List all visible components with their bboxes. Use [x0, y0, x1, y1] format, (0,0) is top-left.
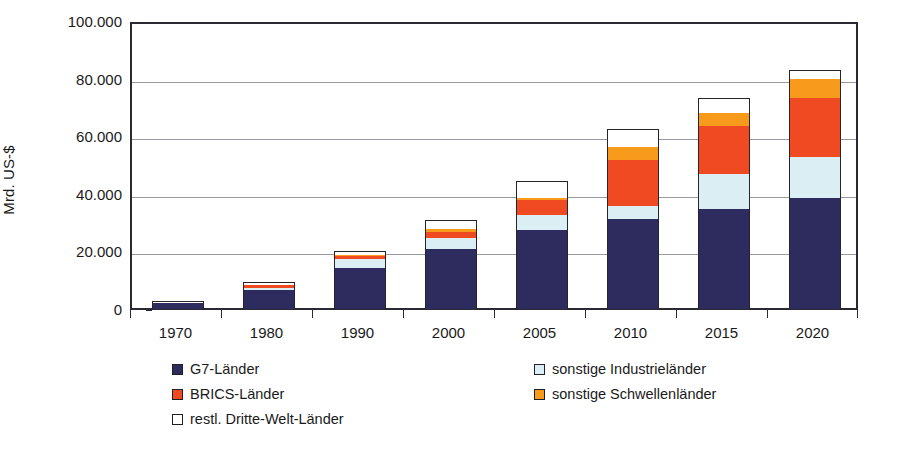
legend-item[interactable]: BRICS-Länder [172, 387, 284, 402]
x-axis-tick-mark [494, 310, 495, 318]
x-axis-tick-label: 1980 [222, 324, 312, 341]
stacked-bar[interactable] [698, 98, 750, 308]
bar-segment[interactable] [607, 129, 659, 146]
y-axis-tick-label: 0 [22, 302, 122, 317]
bar-segment[interactable] [516, 181, 568, 198]
legend-item-label: sonstige Schwellenländer [552, 387, 716, 402]
x-axis-tick-mark [676, 310, 677, 318]
bar-segment[interactable] [789, 77, 841, 97]
stacked-bar[interactable] [334, 251, 386, 308]
legend-item-label: restl. Dritte-Welt-Länder [190, 412, 344, 427]
legend-item[interactable]: restl. Dritte-Welt-Länder [172, 412, 344, 427]
x-axis-tick-mark [403, 310, 404, 318]
bar-group [587, 24, 678, 308]
stacked-bar-chart: Mrd. US-$ 020.00040.00060.00080.000100.0… [0, 0, 915, 452]
legend-item-label: sonstige Industrieländer [552, 362, 706, 377]
bar-segment[interactable] [334, 258, 386, 268]
legend-item-label: BRICS-Länder [190, 387, 284, 402]
bar-segment[interactable] [607, 158, 659, 206]
x-axis-tick-mark [221, 310, 222, 318]
bar-segment[interactable] [698, 112, 750, 126]
bar-segment[interactable] [516, 229, 568, 309]
legend-item[interactable]: G7-Länder [172, 362, 259, 377]
y-axis-tick-label: 100.000 [22, 14, 122, 29]
x-axis-tick-mark [312, 310, 313, 318]
x-axis-tick-label: 2005 [495, 324, 585, 341]
legend-item[interactable]: sonstige Schwellenländer [534, 387, 716, 402]
bar-segment[interactable] [607, 145, 659, 159]
bar-segment[interactable] [243, 282, 295, 285]
stacked-bar[interactable] [425, 220, 477, 308]
x-axis-tick-label: 1990 [313, 324, 403, 341]
bar-segment[interactable] [152, 301, 204, 303]
bar-group [223, 24, 314, 308]
x-axis-tick-mark [585, 310, 586, 318]
bar-segment[interactable] [425, 237, 477, 249]
x-axis-tick-label: 1970 [131, 324, 221, 341]
x-axis: 19701980199020002005201020152020 [130, 310, 858, 356]
x-axis-tick-label: 2000 [404, 324, 494, 341]
stacked-bar[interactable] [607, 129, 659, 308]
bar-group [678, 24, 769, 308]
bar-segment[interactable] [425, 247, 477, 309]
bar-group [769, 24, 860, 308]
y-axis-title: Mrd. US-$ [0, 120, 17, 240]
y-axis-tick-label: 60.000 [22, 129, 122, 144]
stacked-bar[interactable] [243, 282, 295, 308]
bar-segment[interactable] [789, 155, 841, 198]
plot-area [130, 22, 858, 310]
bar-group [405, 24, 496, 308]
legend-swatch-icon [172, 364, 183, 375]
legend-swatch-icon [534, 364, 545, 375]
bar-segment[interactable] [789, 96, 841, 156]
bar-segment[interactable] [425, 220, 477, 229]
stacked-bar[interactable] [789, 70, 841, 308]
y-axis-tick-labels: 020.00040.00060.00080.000100.000 [22, 0, 122, 452]
bar-series-group [132, 24, 856, 308]
x-axis-tick-label: 2020 [768, 324, 858, 341]
bar-segment[interactable] [334, 267, 386, 310]
legend-item[interactable]: sonstige Industrieländer [534, 362, 706, 377]
x-axis-tick-mark [130, 310, 131, 318]
bar-segment[interactable] [698, 125, 750, 174]
y-axis-tick-label: 80.000 [22, 72, 122, 87]
bar-segment[interactable] [698, 98, 750, 114]
x-axis-tick-label: 2010 [586, 324, 676, 341]
bar-segment[interactable] [334, 251, 386, 255]
bar-segment[interactable] [607, 217, 659, 309]
bar-segment[interactable] [607, 204, 659, 218]
y-axis-tick-label: 20.000 [22, 244, 122, 259]
legend-item-label: G7-Länder [190, 362, 259, 377]
bar-segment[interactable] [516, 213, 568, 230]
y-axis-tick-label: 40.000 [22, 187, 122, 202]
x-axis-tick-mark [857, 310, 858, 318]
stacked-bar[interactable] [516, 181, 568, 308]
bar-group [314, 24, 405, 308]
bar-segment[interactable] [516, 198, 568, 214]
bar-segment[interactable] [789, 197, 841, 310]
legend-swatch-icon [172, 414, 183, 425]
legend-swatch-icon [534, 389, 545, 400]
bar-group [496, 24, 587, 308]
bar-segment[interactable] [789, 70, 841, 79]
x-axis-tick-mark [767, 310, 768, 318]
bar-group [132, 24, 223, 308]
legend-swatch-icon [172, 389, 183, 400]
chart-legend: G7-LänderBRICS-Länderrestl. Dritte-Welt-… [172, 362, 872, 442]
x-axis-tick-label: 2015 [677, 324, 767, 341]
bar-segment[interactable] [698, 207, 750, 309]
bar-segment[interactable] [698, 173, 750, 209]
stacked-bar[interactable] [152, 301, 204, 308]
bar-segment[interactable] [243, 289, 295, 309]
